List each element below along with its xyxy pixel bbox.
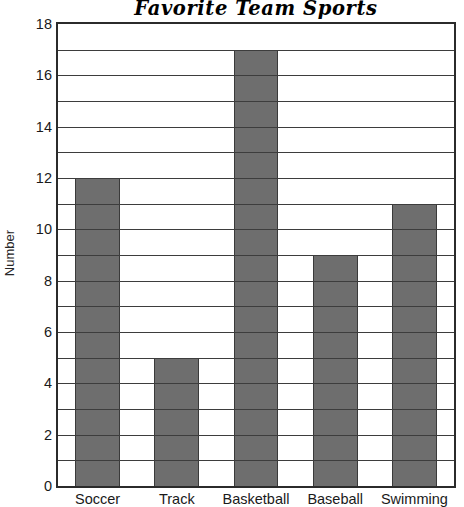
gridline [58, 204, 454, 205]
gridline [58, 50, 454, 51]
gridline [58, 229, 454, 230]
y-tick-label: 8 [6, 272, 52, 290]
x-axis-tick-labels: SoccerTrackBasketballBaseballSwimming [56, 489, 456, 507]
y-tick-label: 6 [6, 323, 52, 341]
gridline [58, 332, 454, 333]
x-tick-label-basketball: Basketball [216, 489, 295, 507]
bar-track [154, 358, 199, 486]
gridline [58, 358, 454, 359]
y-tick-label: 16 [6, 66, 52, 84]
gridline [58, 460, 454, 461]
x-tick-label-track: Track [137, 489, 216, 507]
gridline [58, 152, 454, 153]
gridline [58, 127, 454, 128]
gridline [58, 281, 454, 282]
y-tick-label: 14 [6, 118, 52, 136]
x-tick-label-soccer: Soccer [58, 489, 137, 507]
x-tick-label-swimming: Swimming [375, 489, 454, 507]
y-tick-label: 0 [6, 477, 52, 495]
y-tick-label: 2 [6, 426, 52, 444]
gridline [58, 409, 454, 410]
y-tick-label: 18 [6, 15, 52, 33]
y-tick-label: 4 [6, 374, 52, 392]
bar-basketball [234, 50, 279, 486]
y-tick-label: 12 [6, 169, 52, 187]
gridline [58, 306, 454, 307]
bar-swimming [392, 204, 437, 486]
chart-title: Favorite Team Sports [56, 0, 456, 20]
gridline [58, 75, 454, 76]
bar-baseball [313, 255, 358, 486]
gridline [58, 178, 454, 179]
plot-area [56, 22, 456, 488]
y-axis-tick-labels: 181614121086420 [0, 22, 52, 488]
gridline [58, 101, 454, 102]
gridline [58, 435, 454, 436]
x-tick-label-baseball: Baseball [296, 489, 375, 507]
gridline [58, 383, 454, 384]
gridline [58, 255, 454, 256]
y-tick-label: 10 [6, 220, 52, 238]
bar-chart: Favorite Team Sports Number 181614121086… [0, 0, 464, 507]
